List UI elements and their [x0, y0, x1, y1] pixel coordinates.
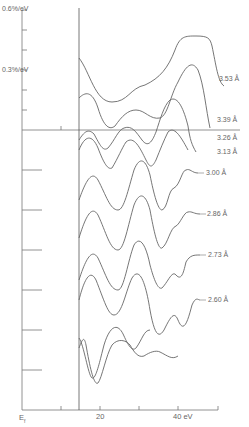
curve-label-3.00: 3.00 Å [206, 169, 226, 176]
curve-label-3.26: 3.26 Å [217, 134, 237, 141]
curve-3.00 [79, 161, 198, 210]
curve-3.53 [79, 36, 224, 102]
x-label-ef-sub: f [24, 418, 25, 424]
curve-label-3.13: 3.13 Å [217, 148, 237, 155]
curve-label-2.60: 2.60 Å [208, 296, 228, 303]
curve-bottom-1 [79, 327, 150, 378]
curve-label-3.39: 3.39 Å [217, 116, 237, 123]
curve-bottom-2 [79, 339, 178, 383]
curve-label-3.53: 3.53 Å [219, 75, 239, 82]
curve-3.00b [79, 196, 200, 250]
curve-3.39 [79, 65, 210, 128]
y-label-mid: 0.3%/eV [2, 66, 28, 73]
curve-label-2.73: 2.73 Å [208, 251, 228, 258]
curve-label-2.86: 2.86 Å [207, 210, 227, 217]
y-label-top: 0.6%/eV [2, 5, 28, 12]
curve-2.60 [79, 274, 200, 334]
x-label-ef: Ef [19, 413, 25, 424]
x-label-20: 20 [96, 412, 104, 421]
x-label-40: 40 eV [173, 412, 193, 421]
